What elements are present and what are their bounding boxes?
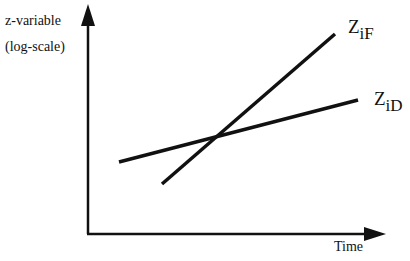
y-axis-label-line1: z-variable — [5, 13, 61, 29]
y-axis-arrow-icon — [81, 4, 95, 26]
x-axis-arrow-icon — [364, 227, 386, 241]
y-axis-label-line2: (log-scale) — [5, 39, 65, 55]
label-ziF: ZiF — [348, 16, 374, 44]
label-ziD-main: Z — [374, 88, 386, 109]
line-ziF — [162, 34, 335, 184]
label-ziD-sub: iD — [386, 96, 403, 115]
label-ziF-sub: iF — [360, 24, 374, 43]
diagram: z-variable (log-scale) ZiF ZiD Time — [0, 0, 410, 261]
x-axis-label: Time — [334, 239, 363, 255]
line-ziD — [119, 100, 358, 162]
label-ziD: ZiD — [374, 88, 403, 116]
label-ziF-main: Z — [348, 16, 360, 37]
